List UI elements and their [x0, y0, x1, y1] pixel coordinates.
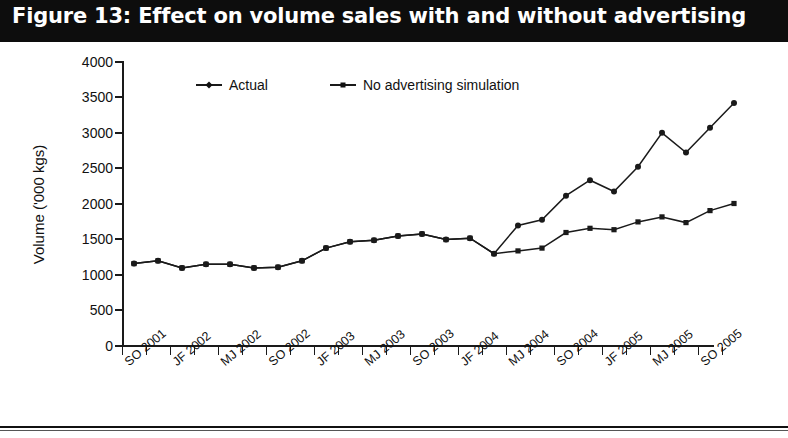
data-point: [611, 227, 616, 232]
data-point: [179, 265, 184, 270]
series-line-actual: [134, 103, 734, 268]
figure-container: Figure 13: Effect on volume sales with a…: [0, 0, 788, 438]
data-point: [251, 265, 256, 270]
data-point: [443, 237, 448, 242]
data-point: [707, 125, 713, 131]
data-point: [467, 236, 472, 241]
data-point: [203, 262, 208, 267]
data-point: [155, 258, 160, 263]
data-point: [131, 261, 136, 266]
data-point: [539, 217, 545, 223]
data-point: [563, 193, 569, 199]
data-point: [731, 201, 736, 206]
data-point: [587, 177, 593, 183]
data-point: [659, 130, 665, 136]
data-point: [635, 219, 640, 224]
data-point: [731, 100, 737, 106]
data-point: [371, 238, 376, 243]
data-point: [683, 220, 688, 225]
data-point: [515, 248, 520, 253]
data-point: [323, 246, 328, 251]
data-point: [539, 246, 544, 251]
series-lines: [0, 0, 788, 438]
data-point: [395, 233, 400, 238]
data-point: [587, 226, 592, 231]
data-point: [707, 208, 712, 213]
plot-area: 4000 3500 3000 2500 2000 1500 1000 500 0…: [0, 0, 788, 438]
data-point: [347, 239, 352, 244]
data-point: [611, 189, 617, 195]
series-line-no-advertising-simulation: [134, 204, 734, 268]
data-point: [227, 262, 232, 267]
bottom-divider-secondary: [0, 430, 788, 431]
data-point: [683, 150, 689, 156]
data-point: [515, 222, 521, 228]
bottom-divider: [0, 426, 788, 428]
data-point: [659, 214, 664, 219]
data-point: [299, 258, 304, 263]
data-point: [275, 265, 280, 270]
data-point: [635, 164, 641, 170]
data-point: [563, 230, 568, 235]
data-point: [419, 231, 424, 236]
data-point: [491, 251, 496, 256]
